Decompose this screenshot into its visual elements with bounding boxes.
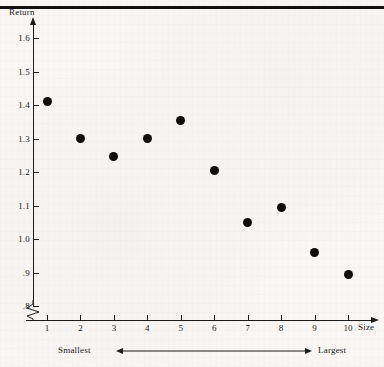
- y-axis-tick: [33, 239, 39, 240]
- y-axis-tick: [33, 139, 39, 140]
- x-axis-tick: [80, 315, 81, 320]
- y-axis-arrow-icon: [30, 17, 36, 25]
- x-axis-tick-label: 6: [204, 324, 224, 333]
- range-label-largest: Largest: [318, 346, 346, 355]
- paper-texture: [0, 0, 384, 367]
- x-axis-tick: [248, 315, 249, 320]
- y-axis-tick-label: 1.5: [4, 68, 30, 77]
- scatter-point: [243, 218, 252, 227]
- y-axis-tick-label: .8: [4, 302, 30, 311]
- x-axis-tick: [348, 315, 349, 320]
- double-headed-arrow-icon: [116, 346, 312, 356]
- y-axis-tick: [33, 206, 39, 207]
- y-axis-tick-label: 1.2: [4, 168, 30, 177]
- scatter-point: [210, 166, 219, 175]
- y-axis-tick-label: 1.4: [4, 101, 30, 110]
- y-axis-tick-label: 1.6: [4, 34, 30, 43]
- scatter-point: [43, 97, 52, 106]
- x-axis-tick-label: 5: [171, 324, 191, 333]
- x-axis-tick-label: 8: [271, 324, 291, 333]
- x-axis-line: [26, 320, 373, 321]
- x-axis-tick-label: 10: [338, 324, 358, 333]
- scatter-point: [76, 134, 85, 143]
- scatter-point: [109, 152, 118, 161]
- y-axis-tick-label: 1.3: [4, 135, 30, 144]
- y-axis-title: Return: [9, 8, 35, 17]
- y-axis-tick-label: 1.1: [4, 202, 30, 211]
- x-axis-tick-label: 3: [104, 324, 124, 333]
- y-axis-tick: [33, 172, 39, 173]
- scatter-point: [344, 270, 353, 279]
- figure-canvas: Return 1.61.51.41.31.21.11.0.9.8 1234567…: [0, 0, 384, 367]
- y-axis-tick: [33, 38, 39, 39]
- x-axis-tick: [114, 315, 115, 320]
- range-label-smallest: Smallest: [58, 346, 91, 355]
- x-axis-tick: [315, 315, 316, 320]
- top-horizontal-rule: [0, 6, 384, 9]
- scatter-point: [143, 134, 152, 143]
- y-axis-line: [33, 24, 34, 306]
- x-axis-tick: [47, 315, 48, 320]
- size-range-annotation: Smallest Largest: [0, 346, 384, 362]
- scatter-point: [277, 203, 286, 212]
- scatter-point: [310, 248, 319, 257]
- x-axis-tick-label: 1: [37, 324, 57, 333]
- x-axis-tick-label: 7: [238, 324, 258, 333]
- x-axis-tick-label: 4: [137, 324, 157, 333]
- x-axis-tick: [147, 315, 148, 320]
- x-axis-title: Size: [358, 323, 374, 332]
- y-axis-tick: [33, 306, 39, 307]
- x-axis-tick: [281, 315, 282, 320]
- y-axis-tick: [33, 105, 39, 106]
- y-axis-tick-label: .9: [4, 269, 30, 278]
- y-axis-tick-label: 1.0: [4, 235, 30, 244]
- x-axis-tick: [214, 315, 215, 320]
- scatter-point: [176, 116, 185, 125]
- x-axis-tick-label: 9: [305, 324, 325, 333]
- y-axis-tick: [33, 72, 39, 73]
- x-axis-tick: [181, 315, 182, 320]
- y-axis-tick: [33, 273, 39, 274]
- x-axis-tick-label: 2: [70, 324, 90, 333]
